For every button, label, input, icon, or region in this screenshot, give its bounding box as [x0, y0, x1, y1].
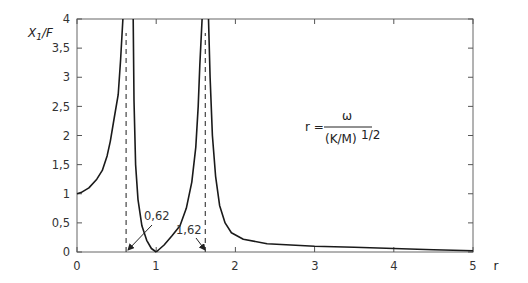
- x-tick-label: 4: [390, 259, 397, 273]
- response-curve: [77, 19, 473, 252]
- y-tick-label: 2,5: [52, 100, 70, 114]
- x-axis-title: r: [494, 259, 499, 273]
- annotation-label-1-62: 1,62: [176, 223, 202, 237]
- formula-denominator: (K/M): [325, 132, 357, 146]
- formula-exponent: 1/2: [361, 128, 380, 142]
- tick-marks: [77, 19, 473, 252]
- x-tick-label: 1: [152, 259, 159, 273]
- x-tick-label: 5: [469, 259, 476, 273]
- annotation-label-0-62: 0,62: [144, 209, 170, 223]
- y-tick-label: 3: [63, 70, 70, 84]
- plot-frame: [77, 19, 473, 252]
- formula: r = ω (K/M) 1/2: [305, 109, 380, 146]
- curve-segment: [77, 19, 123, 194]
- y-tick-label: 4: [63, 12, 70, 26]
- annotation-arrow-0-62: [128, 225, 152, 250]
- y-axis-title-tail: /F: [41, 26, 54, 40]
- y-tick-label: 1,5: [52, 158, 70, 172]
- y-tick-label: 2: [63, 129, 70, 143]
- y-axis-title: X1/F: [27, 26, 54, 42]
- y-tick-label: 1: [63, 187, 70, 201]
- formula-numerator: ω: [342, 109, 352, 123]
- y-tick-label: 3,5: [52, 41, 70, 55]
- x-tick-labels: 0 1 2 3 4 5: [73, 259, 476, 273]
- y-tick-label: 0,5: [52, 216, 70, 230]
- formula-lhs: r =: [305, 120, 324, 134]
- x-tick-label: 3: [311, 259, 318, 273]
- annotation-arrow-1-62: [196, 238, 205, 250]
- chart: 0 0,5 1 1,5 2 2,5 3 3,5 4 0 1 2 3 4 5 X1…: [0, 0, 528, 283]
- y-tick-label: 0: [63, 245, 70, 259]
- x-tick-label: 0: [73, 259, 80, 273]
- x-tick-label: 2: [231, 259, 238, 273]
- y-tick-labels: 0 0,5 1 1,5 2 2,5 3 3,5 4: [52, 12, 70, 259]
